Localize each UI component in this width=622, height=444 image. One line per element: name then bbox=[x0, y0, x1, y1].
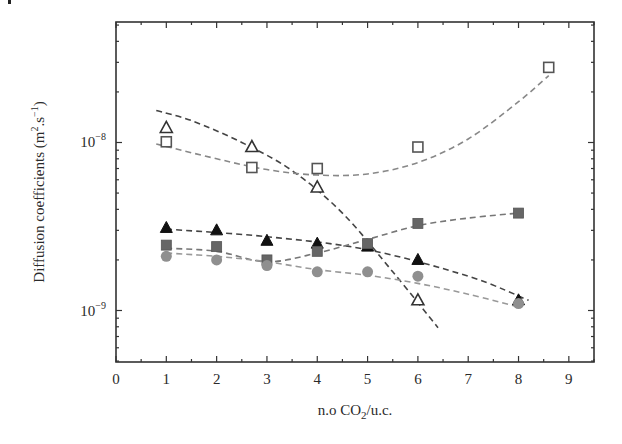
filled-circle-marker bbox=[211, 254, 222, 265]
data-markers bbox=[160, 62, 553, 309]
x-tick-label: 8 bbox=[515, 371, 523, 387]
filled-square-marker bbox=[312, 246, 322, 256]
filled-circle-marker bbox=[161, 251, 172, 262]
open-triangle-marker bbox=[246, 141, 258, 152]
x-tick-label: 4 bbox=[314, 371, 322, 387]
y-tick-label-1e-8: 10−8 bbox=[80, 131, 106, 150]
filled-triangle-marker bbox=[412, 253, 424, 264]
open-triangle-marker bbox=[412, 294, 424, 305]
plot-border bbox=[116, 22, 594, 362]
filled-circle-marker bbox=[513, 298, 524, 309]
filled-triangle-marker bbox=[211, 224, 223, 235]
x-tick-label: 5 bbox=[364, 371, 372, 387]
x-axis-title: n.o CO2/u.c. bbox=[318, 402, 393, 421]
x-tick-label: 3 bbox=[263, 371, 271, 387]
open-square-fit-line bbox=[156, 76, 548, 176]
open-triangle-marker bbox=[160, 121, 172, 132]
fit-lines bbox=[156, 76, 548, 328]
axis-ticks: 0123456789 bbox=[112, 22, 594, 387]
filled-square-marker bbox=[363, 239, 373, 249]
open-square-marker bbox=[544, 62, 554, 72]
filled-circle-marker bbox=[312, 266, 323, 277]
x-tick-label: 6 bbox=[414, 371, 422, 387]
y-axis-title: Diffusion coefficients (m2.s−1) bbox=[29, 101, 48, 282]
filled-triangle-fit-line bbox=[166, 229, 528, 300]
open-triangle-fit-line bbox=[156, 111, 438, 328]
filled-triangle-marker bbox=[261, 234, 273, 245]
x-tick-label: 1 bbox=[163, 371, 171, 387]
y-tick-label-1e-9: 10−9 bbox=[80, 300, 106, 319]
open-square-marker bbox=[161, 137, 171, 147]
filled-square-fit-line bbox=[166, 213, 518, 262]
filled-circle-marker bbox=[261, 260, 272, 271]
filled-square-marker bbox=[413, 218, 423, 228]
filled-square-marker bbox=[212, 242, 222, 252]
open-square-marker bbox=[413, 142, 423, 152]
x-tick-label: 7 bbox=[464, 371, 472, 387]
filled-square-marker bbox=[514, 208, 524, 218]
filled-square-marker bbox=[161, 240, 171, 250]
plot-frame bbox=[116, 22, 594, 362]
x-tick-label: 9 bbox=[565, 371, 573, 387]
filled-circle-marker bbox=[362, 266, 373, 277]
x-tick-label: 0 bbox=[112, 371, 120, 387]
x-tick-label: 2 bbox=[213, 371, 221, 387]
filled-triangle-marker bbox=[160, 221, 172, 232]
open-square-marker bbox=[312, 164, 322, 174]
diffusion-chart: 0123456789 n.o CO2/u.c. Diffusion coeffi… bbox=[0, 0, 622, 444]
open-square-marker bbox=[247, 162, 257, 172]
filled-circle-marker bbox=[412, 271, 423, 282]
